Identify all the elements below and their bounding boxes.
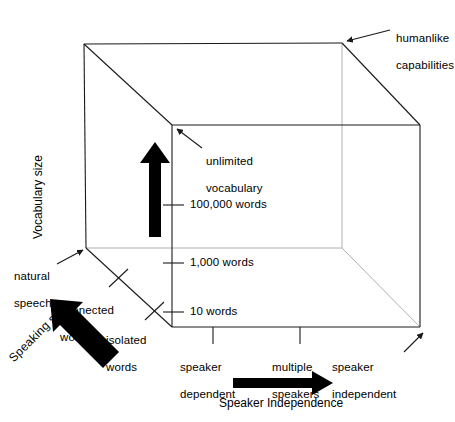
horizontal-axis-ticks bbox=[213, 327, 300, 344]
axis-title-vocabulary-size: Vocabulary size bbox=[31, 137, 45, 257]
label-humanlike-capabilities-line1: humanlike bbox=[396, 32, 454, 46]
label-tick-10-words: 10 words bbox=[190, 305, 237, 319]
label-tick-isolated-words-line2: words bbox=[106, 361, 146, 375]
edge-diagonal-top-left bbox=[84, 44, 172, 125]
speech-recognition-cube-figure: humanlike capabilities unlimited vocabul… bbox=[0, 0, 455, 422]
edge-diagonal-bottom-right bbox=[342, 248, 420, 327]
label-tick-100000-words: 100,000 words bbox=[190, 198, 267, 212]
label-tick-1000-words: 1,000 words bbox=[190, 256, 254, 270]
label-tick-speaker-independent-line1: speaker bbox=[332, 361, 396, 375]
edge-back-top bbox=[84, 43, 342, 44]
label-tick-speaker-dependent-line1: speaker bbox=[180, 361, 235, 375]
pointer-speaker-independent bbox=[404, 333, 423, 352]
label-tick-natural-speech-line2: speech bbox=[14, 297, 52, 311]
axis-title-speaker-independence: Speaker Independence bbox=[219, 396, 343, 410]
pointer-humanlike-capabilities bbox=[347, 30, 390, 41]
label-humanlike-capabilities: humanlike capabilities bbox=[396, 18, 454, 86]
edge-back-left-vertical bbox=[84, 44, 86, 248]
label-tick-isolated-words: isolated words bbox=[106, 320, 146, 388]
label-tick-natural-speech-line1: natural bbox=[14, 270, 52, 284]
pointer-unlimited-vocabulary bbox=[177, 129, 202, 148]
vertical-axis-ticks bbox=[163, 205, 184, 312]
pointer-natural-speech bbox=[57, 250, 83, 264]
label-unlimited-vocabulary-line2: vocabulary bbox=[206, 182, 263, 196]
label-tick-isolated-words-line1: isolated bbox=[106, 334, 146, 348]
vocabulary-size-arrow bbox=[140, 142, 170, 237]
label-humanlike-capabilities-line2: capabilities bbox=[396, 59, 454, 73]
label-tick-multiple-speakers-line1: multiple bbox=[272, 361, 319, 375]
label-unlimited-vocabulary-line1: unlimited bbox=[206, 155, 263, 169]
